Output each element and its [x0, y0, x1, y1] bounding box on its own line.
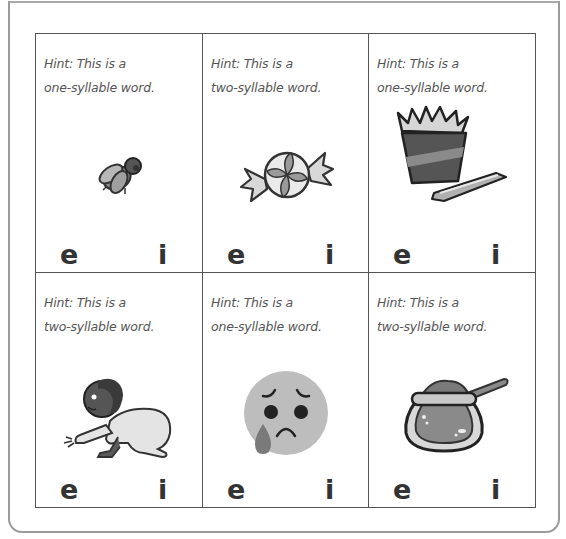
chips-and-chip-icon: [369, 96, 535, 216]
choice-letter-i[interactable]: i: [158, 240, 167, 270]
hint-line-1: Hint: This is a: [44, 291, 199, 315]
hint-line-2: one-syllable word.: [44, 76, 199, 100]
choice-letter-i[interactable]: i: [491, 475, 500, 505]
candy-icon: [203, 114, 368, 234]
hint-line-1: Hint: This is a: [211, 52, 366, 76]
word-card: Hint: This is a two-syllable word. e i: [203, 34, 369, 273]
choice-letter-e[interactable]: e: [393, 475, 411, 505]
hint-text: Hint: This is a two-syllable word.: [211, 52, 366, 100]
choice-letter-i[interactable]: i: [491, 240, 500, 270]
hint-line-2: two-syllable word.: [377, 315, 532, 339]
hint-line-1: Hint: This is a: [377, 52, 532, 76]
sad-crying-face-icon: [203, 353, 368, 473]
hint-line-2: one-syllable word.: [211, 315, 366, 339]
choice-letter-e[interactable]: e: [227, 475, 245, 505]
honey-pot-icon: [369, 353, 535, 473]
choice-letter-e[interactable]: e: [393, 240, 411, 270]
choice-letter-i[interactable]: i: [325, 475, 334, 505]
word-card: Hint: This is a one-syllable word. e i: [203, 273, 369, 507]
hint-text: Hint: This is a one-syllable word.: [377, 52, 532, 100]
choice-letter-i[interactable]: i: [158, 475, 167, 505]
hint-line-1: Hint: This is a: [211, 291, 366, 315]
hint-line-1: Hint: This is a: [377, 291, 532, 315]
word-card-grid: Hint: This is a one-syllable word. e i H…: [35, 33, 536, 508]
hint-line-2: two-syllable word.: [44, 315, 199, 339]
hint-line-2: two-syllable word.: [211, 76, 366, 100]
word-card: Hint: This is a one-syllable word. e i: [369, 34, 535, 273]
choice-letter-e[interactable]: e: [227, 240, 245, 270]
crawling-baby-icon: [36, 353, 202, 473]
hint-text: Hint: This is a two-syllable word.: [44, 291, 199, 339]
choice-letter-e[interactable]: e: [60, 475, 78, 505]
word-card: Hint: This is a two-syllable word. e i: [36, 273, 203, 507]
hint-text: Hint: This is a two-syllable word.: [377, 291, 532, 339]
hint-text: Hint: This is a one-syllable word.: [211, 291, 366, 339]
hint-line-1: Hint: This is a: [44, 52, 199, 76]
fly-icon: [36, 114, 202, 234]
choice-letter-i[interactable]: i: [325, 240, 334, 270]
word-card: Hint: This is a one-syllable word. e i: [36, 34, 203, 273]
hint-text: Hint: This is a one-syllable word.: [44, 52, 199, 100]
choice-letter-e[interactable]: e: [60, 240, 78, 270]
word-card: Hint: This is a two-syllable word. e i: [369, 273, 535, 507]
